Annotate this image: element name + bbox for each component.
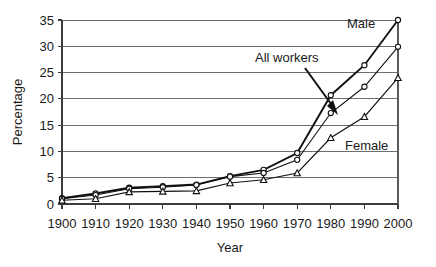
annotation-arrow-line [305, 68, 334, 108]
x-tick-label-1950: 1950 [216, 216, 245, 231]
y-tick-label-35: 35 [40, 13, 54, 28]
x-tick-label-2000: 2000 [384, 216, 413, 231]
y-tick-label-10: 10 [40, 144, 54, 159]
chart-canvas: 0510152025303519001910192019301940195019… [0, 0, 436, 267]
x-tick-label-1900: 1900 [48, 216, 77, 231]
x-tick-label-1910: 1910 [81, 216, 110, 231]
x-tick-label-1970: 1970 [283, 216, 312, 231]
marker-male-1990 [362, 63, 367, 68]
marker-all-workers-1980 [328, 110, 333, 115]
marker-male-1980 [328, 93, 333, 98]
y-tick-label-25: 25 [40, 65, 54, 80]
line-chart: 0510152025303519001910192019301940195019… [0, 0, 436, 267]
marker-all-workers-1950 [227, 174, 232, 179]
annotation-female: Female [345, 138, 388, 153]
marker-all-workers-1990 [362, 84, 367, 89]
y-tick-label-30: 30 [40, 39, 54, 54]
annotation-male: Male [347, 16, 375, 31]
annotation-all-workers: All workers [255, 50, 319, 65]
y-tick-label-15: 15 [40, 118, 54, 133]
marker-male-2000 [395, 17, 400, 22]
x-tick-label-1960: 1960 [249, 216, 278, 231]
y-tick-label-20: 20 [40, 91, 54, 106]
y-tick-label-5: 5 [47, 170, 54, 185]
marker-male-1970 [295, 150, 300, 155]
y-tick-label-0: 0 [47, 197, 54, 212]
marker-all-workers-2000 [395, 44, 400, 49]
marker-all-workers-1960 [261, 170, 266, 175]
x-tick-label-1990: 1990 [350, 216, 379, 231]
x-tick-label-1920: 1920 [115, 216, 144, 231]
x-tick-label-1980: 1980 [316, 216, 345, 231]
marker-all-workers-1970 [295, 157, 300, 162]
marker-female-1980 [328, 135, 334, 141]
y-axis-title: Percentage [10, 79, 25, 146]
marker-female-2000 [395, 75, 401, 81]
x-axis-title: Year [217, 240, 244, 255]
x-tick-label-1940: 1940 [182, 216, 211, 231]
x-tick-label-1930: 1930 [148, 216, 177, 231]
